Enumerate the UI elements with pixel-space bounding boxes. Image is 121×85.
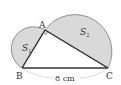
triangle-semicircles-diagram: A B C S1 S2 8 cm <box>0 0 121 85</box>
side-length-label: 8 cm <box>55 74 75 83</box>
dimension-arc-left <box>22 68 54 78</box>
dimension-arc-right <box>80 68 108 78</box>
semicircle-s2 <box>45 15 112 68</box>
vertex-label-b: B <box>16 71 23 81</box>
vertex-label-c: C <box>106 71 113 81</box>
vertex-label-a: A <box>38 20 46 30</box>
